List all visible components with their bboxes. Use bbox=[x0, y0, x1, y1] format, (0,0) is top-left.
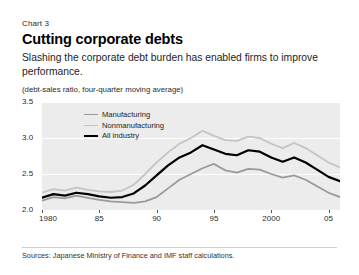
x-axis-tick-mark bbox=[42, 210, 43, 213]
x-axis-tick-mark bbox=[271, 210, 272, 213]
chart-unit-note: (debt-sales ratio, four-quarter moving a… bbox=[22, 85, 341, 95]
x-axis-tick-label: 95 bbox=[209, 214, 218, 223]
y-axis-tick-label: 3.0 bbox=[22, 134, 40, 142]
x-axis-tick-label: 90 bbox=[152, 214, 161, 223]
source-note: Sources: Japanese Ministry of Finance an… bbox=[22, 251, 234, 261]
x-axis-tick-label: 2000 bbox=[262, 214, 280, 223]
x-axis-ticks: 1980859095200005 bbox=[42, 210, 340, 226]
legend-label: All industry bbox=[102, 131, 139, 140]
series-line-manufacturing bbox=[42, 164, 340, 203]
footer-divider bbox=[22, 247, 337, 248]
legend-item[interactable]: Nonmanufacturing bbox=[84, 121, 164, 130]
legend-swatch-icon bbox=[84, 125, 98, 126]
legend-swatch-icon bbox=[84, 114, 98, 115]
legend-label: Nonmanufacturing bbox=[102, 121, 164, 130]
legend-swatch-icon bbox=[84, 135, 98, 137]
y-axis-tick-label: 2.0 bbox=[22, 206, 40, 214]
legend-item[interactable]: All industry bbox=[84, 131, 164, 140]
x-axis-tick-mark bbox=[214, 210, 215, 213]
x-axis-tick-mark bbox=[157, 210, 158, 213]
legend-label: Manufacturing bbox=[102, 110, 150, 119]
x-axis-tick-label: 85 bbox=[95, 214, 104, 223]
chart-legend: ManufacturingNonmanufacturingAll industr… bbox=[84, 110, 164, 142]
x-axis-tick-mark bbox=[329, 210, 330, 213]
chart-subtitle: Slashing the corporate debt burden has e… bbox=[22, 51, 322, 78]
x-axis-tick-label: 05 bbox=[324, 214, 333, 223]
chart-number-label: Chart 3 bbox=[22, 18, 341, 29]
chart-figure: Chart 3 Cutting corporate debts Slashing… bbox=[0, 0, 359, 275]
x-axis-tick-label: 1980 bbox=[39, 214, 57, 223]
y-axis-tick-label: 3.5 bbox=[22, 98, 40, 106]
y-axis-tick-label: 2.5 bbox=[22, 170, 40, 178]
x-axis-tick-mark bbox=[99, 210, 100, 213]
legend-item[interactable]: Manufacturing bbox=[84, 110, 164, 119]
plot-wrap: 2.02.53.03.5 ManufacturingNonmanufacturi… bbox=[22, 96, 344, 216]
page-title: Cutting corporate debts bbox=[22, 31, 341, 48]
